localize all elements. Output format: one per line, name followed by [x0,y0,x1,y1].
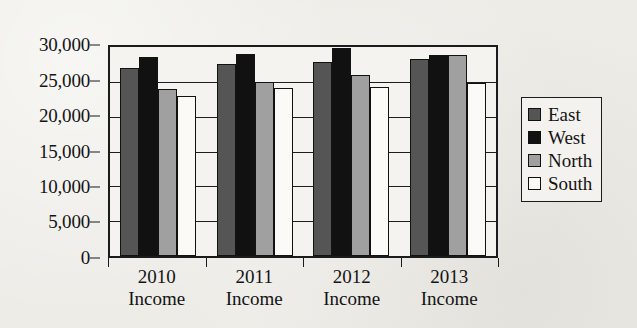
bar-north-2013 [448,55,467,256]
x-label-year: 2013 [421,266,478,288]
y-tick-label-25000: 25,000 [39,70,90,92]
legend-swatch-west-icon [528,131,541,144]
plot-area [108,45,498,258]
y-tick-label-20000: 20,000 [39,105,90,127]
bar-east-2012 [313,62,332,256]
y-tick-mark-25000 [90,80,100,81]
bar-west-2010 [139,57,158,256]
legend-label-east: East [548,105,581,124]
y-tick-mark-20000 [90,115,100,116]
bar-west-2011 [236,54,255,256]
x-label-metric: Income [128,288,185,310]
chart-legend: East West North South [521,97,602,202]
y-tick-label-30000: 30,000 [39,34,90,56]
bar-north-2011 [255,82,274,256]
bars-layer [110,47,496,256]
x-axis-group-label-2012: 2012Income [323,266,380,311]
y-axis: 30,000 25,000 20,000 15,000 10,000 5,000… [0,45,100,258]
bar-east-2010 [120,68,139,256]
bar-west-2012 [332,48,351,256]
legend-swatch-east-icon [528,108,541,121]
legend-item-east: East [528,103,592,126]
x-label-metric: Income [421,288,478,310]
bar-north-2010 [158,89,177,256]
y-tick-mark-30000 [90,45,100,46]
bar-west-2013 [429,55,448,256]
bar-east-2011 [217,64,236,256]
legend-item-south: South [528,172,592,195]
y-tick-mark-5000 [90,222,100,223]
x-axis-group-label-2013: 2013Income [421,266,478,311]
bar-south-2011 [274,88,293,256]
x-label-year: 2010 [128,266,185,288]
y-tick-label-0: 0 [81,247,90,269]
x-label-year: 2012 [323,266,380,288]
x-label-year: 2011 [226,266,283,288]
x-label-metric: Income [226,288,283,310]
x-tick-mark-4 [498,258,499,267]
legend-item-north: North [528,149,592,172]
legend-label-south: South [548,174,592,193]
bar-south-2013 [467,83,486,256]
chart-page: 30,000 25,000 20,000 15,000 10,000 5,000… [0,0,637,328]
bar-east-2013 [410,59,429,256]
legend-swatch-north-icon [528,154,541,167]
x-axis-group-label-2010: 2010Income [128,266,185,311]
x-label-metric: Income [323,288,380,310]
x-axis-labels: 2010Income2011Income2012Income2013Income [108,266,498,322]
bar-south-2010 [177,96,196,256]
y-tick-mark-15000 [90,151,100,152]
legend-label-north: North [548,151,592,170]
bar-south-2012 [370,87,389,256]
legend-label-west: West [548,128,586,147]
y-tick-label-5000: 5,000 [48,211,90,233]
y-tick-label-10000: 10,000 [39,176,90,198]
bar-north-2012 [351,75,370,256]
y-tick-mark-10000 [90,187,100,188]
y-tick-mark-0 [90,258,100,259]
x-axis-group-label-2011: 2011Income [226,266,283,311]
y-tick-label-15000: 15,000 [39,141,90,163]
legend-swatch-south-icon [528,177,541,190]
legend-item-west: West [528,126,592,149]
